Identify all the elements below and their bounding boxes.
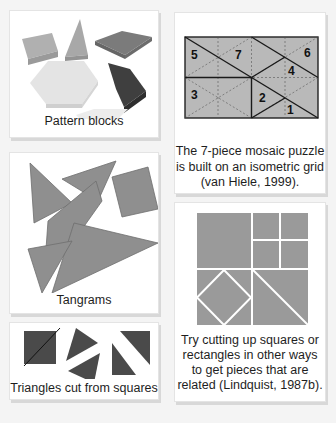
tangrams-card: Tangrams xyxy=(9,152,159,314)
mosaic-piece-5: 5 xyxy=(191,48,198,62)
triangles-illustration xyxy=(10,323,158,379)
mosaic-piece-7: 7 xyxy=(235,48,242,62)
triangles-card: Triangles cut from squares xyxy=(9,322,159,400)
mosaic-piece-2: 2 xyxy=(259,91,266,105)
pattern-blocks-caption: Pattern blocks xyxy=(10,114,158,130)
mosaic-puzzle-card: 1 2 3 4 5 6 7 The 7-piece mosaic puzzle … xyxy=(174,12,326,194)
mosaic-caption: The 7-piece mosaic puzzle is built on an… xyxy=(175,144,325,191)
triangles-caption: Triangles cut from squares xyxy=(10,381,158,397)
mosaic-piece-1: 1 xyxy=(287,103,294,117)
mosaic-piece-3: 3 xyxy=(191,88,198,102)
cut-squares-caption: Try cutting up squares or rectangles in … xyxy=(175,333,325,393)
mosaic-piece-6: 6 xyxy=(304,46,311,60)
pattern-blocks-card: Pattern blocks xyxy=(9,10,159,138)
tangrams-caption: Tangrams xyxy=(10,293,158,309)
mosaic-piece-4: 4 xyxy=(288,64,295,78)
cut-squares-card: Try cutting up squares or rectangles in … xyxy=(174,202,326,402)
pattern-blocks-illustration xyxy=(10,11,158,121)
cut-squares-diagram xyxy=(175,203,325,331)
tangrams-illustration xyxy=(10,153,158,293)
mosaic-puzzle-diagram: 1 2 3 4 5 6 7 xyxy=(175,13,325,128)
